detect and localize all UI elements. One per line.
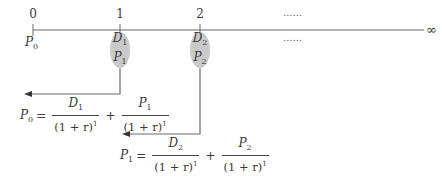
formula-1-lhs: P0 — [20, 108, 33, 124]
plus-sign: + — [205, 149, 215, 163]
ellipsis-top: ...... — [283, 7, 302, 18]
price-sub-2: 2 — [201, 57, 206, 66]
numerator-sub: 2 — [178, 143, 183, 152]
discount-arrow-1 — [30, 66, 120, 94]
denominator-base: (1 + r) — [124, 120, 163, 134]
formula-2-lhs-var: P — [120, 148, 128, 162]
price-sub-1: 1 — [121, 57, 126, 66]
dividend-var-1: D — [113, 31, 123, 45]
equals-sign: = — [136, 149, 146, 163]
period-label-0: 0 — [29, 8, 37, 20]
numerator-sub: 2 — [247, 143, 252, 152]
numerator-var: D — [68, 96, 78, 110]
plus-sign: + — [105, 109, 115, 123]
formula-2-lhs-sub: 1 — [128, 155, 133, 164]
denominator: (1 + r)1 — [152, 155, 199, 174]
period-label-1: 1 — [116, 8, 124, 20]
infinity-symbol: ∞ — [426, 22, 437, 37]
numerator-var: D — [168, 136, 178, 150]
denominator: (1 + r)1 — [222, 155, 269, 174]
numerator-var: P — [239, 136, 247, 150]
start-price-label: P0 — [25, 35, 38, 51]
denominator-base: (1 + r) — [154, 160, 193, 174]
dividend-sub-1: 1 — [122, 38, 127, 47]
start-price-sub: 0 — [33, 42, 38, 51]
numerator: D2 — [166, 137, 185, 155]
dividend-label-1: D1 — [113, 31, 128, 50]
dividend-sub-2: 2 — [202, 38, 207, 47]
formula-2-lhs: P1 — [120, 148, 133, 164]
formula-1-term-2: P1 (1 + r)1 — [122, 97, 169, 134]
equals-sign: = — [36, 109, 46, 123]
denominator: (1 + r)1 — [52, 115, 99, 134]
numerator: P2 — [237, 137, 254, 155]
ellipsis-bottom: ...... — [283, 32, 302, 43]
numerator-var: P — [139, 96, 147, 110]
numerator-sub: 1 — [147, 103, 152, 112]
start-price-var: P — [25, 35, 33, 49]
period-label-2: 2 — [196, 8, 204, 20]
numerator: P1 — [137, 97, 154, 115]
formula-1-lhs-var: P — [20, 108, 28, 122]
cashflow-ellipse-1: D1 P1 — [110, 32, 130, 68]
formula-1-term-1: D1 (1 + r)1 — [52, 97, 99, 134]
formula-2-term-1: D2 (1 + r)1 — [152, 137, 199, 174]
denominator-base: (1 + r) — [54, 120, 93, 134]
formula-p1: P1 = D2 (1 + r)1 + P2 (1 + r)1 — [120, 137, 272, 174]
dividend-label-2: D2 — [193, 31, 208, 50]
price-label-1: P1 — [113, 50, 126, 69]
formula-p0: P0 = D1 (1 + r)1 + P1 (1 + r)1 — [20, 97, 172, 134]
numerator: D1 — [66, 97, 85, 115]
denominator-exp: 1 — [262, 160, 266, 168]
denominator-base: (1 + r) — [224, 160, 263, 174]
denominator-exp: 1 — [193, 160, 197, 168]
cashflow-ellipse-2: D2 P2 — [190, 32, 210, 68]
formula-2-term-2: P2 (1 + r)1 — [222, 137, 269, 174]
denominator-exp: 1 — [162, 120, 166, 128]
price-label-2: P2 — [193, 50, 206, 69]
denominator: (1 + r)1 — [122, 115, 169, 134]
denominator-exp: 1 — [93, 120, 97, 128]
formula-1-lhs-sub: 0 — [28, 115, 33, 124]
numerator-sub: 1 — [78, 103, 83, 112]
dividend-var-2: D — [193, 31, 203, 45]
